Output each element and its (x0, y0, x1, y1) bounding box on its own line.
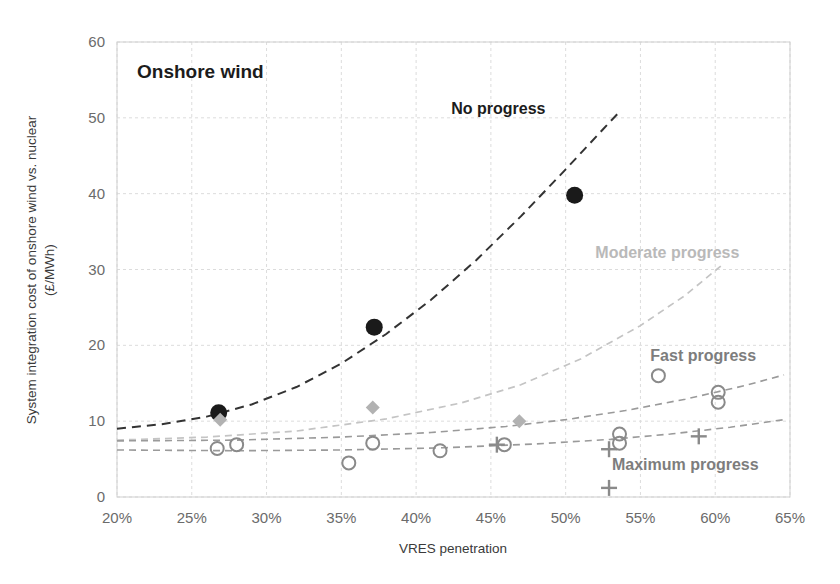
x-tick-label: 45% (476, 509, 506, 526)
x-tick-label: 35% (326, 509, 356, 526)
y-axis-title-line2: (£/MWh) (42, 244, 57, 296)
x-tick-label: 30% (252, 509, 282, 526)
x-tick-label: 60% (700, 509, 730, 526)
x-tick-label: 65% (775, 509, 805, 526)
y-axis-title-line1: System integration cost of onshore wind … (24, 115, 39, 424)
annotation-fast-progress: Fast progress (650, 347, 756, 364)
scatter-plot: 20%25%30%35%40%45%50%55%60%65% 010203040… (0, 0, 840, 584)
data-point-no-progress (566, 187, 583, 204)
chart-title: Onshore wind (137, 61, 264, 82)
y-tick-label: 30 (88, 261, 105, 278)
y-tick-label: 60 (88, 33, 105, 50)
annotation-maximum-progress: Maximum progress (612, 456, 759, 473)
data-point-no-progress (366, 319, 383, 336)
annotation-moderate-progress: Moderate progress (595, 244, 739, 261)
y-tick-label: 10 (88, 412, 105, 429)
y-tick-label: 40 (88, 185, 105, 202)
x-tick-label: 40% (401, 509, 431, 526)
x-tick-label: 25% (177, 509, 207, 526)
x-tick-label: 20% (102, 509, 132, 526)
plot-background (0, 0, 840, 584)
annotation-no-progress: No progress (451, 100, 545, 117)
x-axis-title: VRES penetration (399, 541, 507, 556)
x-tick-label: 55% (625, 509, 655, 526)
y-tick-label: 0 (97, 488, 105, 505)
y-tick-label: 50 (88, 109, 105, 126)
chart-container: 20%25%30%35%40%45%50%55%60%65% 010203040… (0, 0, 840, 584)
x-tick-label: 50% (551, 509, 581, 526)
y-tick-label: 20 (88, 336, 105, 353)
